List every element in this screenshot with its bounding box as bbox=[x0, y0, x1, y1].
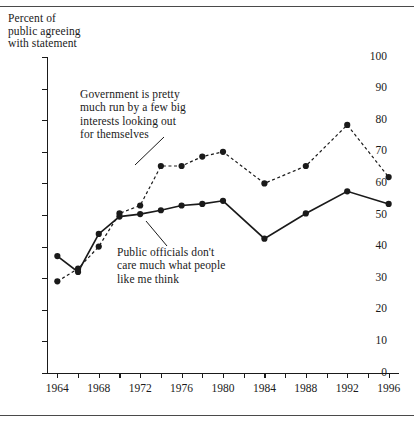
x-tick-label: 1984 bbox=[241, 382, 287, 394]
x-tick bbox=[140, 373, 141, 378]
x-tick-label: 1964 bbox=[34, 382, 80, 394]
x-tick-label: 1992 bbox=[324, 382, 370, 394]
x-tick bbox=[78, 373, 79, 378]
x-tick-label: 1980 bbox=[200, 382, 246, 394]
data-point bbox=[158, 207, 164, 213]
data-point bbox=[54, 253, 60, 259]
data-point bbox=[137, 211, 143, 217]
annotation-interests: Government is pretty much run by a few b… bbox=[80, 88, 186, 142]
chart-axis-title: Percent of public agreeing with statemen… bbox=[8, 12, 81, 50]
data-point bbox=[303, 210, 309, 216]
x-tick bbox=[223, 373, 224, 378]
x-tick bbox=[202, 373, 203, 378]
data-point bbox=[199, 201, 205, 207]
data-point bbox=[96, 231, 102, 237]
x-tick bbox=[347, 373, 348, 378]
data-point bbox=[386, 174, 392, 180]
x-tick bbox=[161, 373, 162, 378]
data-point bbox=[303, 163, 309, 169]
x-tick-label: 1972 bbox=[117, 382, 163, 394]
data-point bbox=[261, 236, 267, 242]
x-tick bbox=[368, 373, 369, 378]
x-tick bbox=[264, 373, 265, 378]
x-tick bbox=[306, 373, 307, 378]
data-point bbox=[386, 201, 392, 207]
data-point bbox=[261, 180, 267, 186]
data-point bbox=[137, 202, 143, 208]
top-rule bbox=[0, 6, 414, 7]
x-tick bbox=[327, 373, 328, 378]
x-tick bbox=[57, 373, 58, 378]
x-tick bbox=[389, 373, 390, 378]
data-point bbox=[199, 153, 205, 159]
data-point bbox=[158, 163, 164, 169]
x-tick bbox=[244, 373, 245, 378]
data-point bbox=[344, 188, 350, 194]
y-tick bbox=[42, 373, 47, 374]
data-point bbox=[96, 244, 102, 250]
x-tick-label: 1968 bbox=[76, 382, 122, 394]
data-point bbox=[54, 278, 60, 284]
x-tick bbox=[119, 373, 120, 378]
x-tick-label: 1976 bbox=[159, 382, 205, 394]
data-point bbox=[178, 202, 184, 208]
data-point bbox=[220, 149, 226, 155]
x-tick bbox=[182, 373, 183, 378]
data-point bbox=[178, 163, 184, 169]
data-point bbox=[116, 213, 122, 219]
annotation-officials: Public officials don't care much what pe… bbox=[117, 246, 225, 286]
data-point bbox=[344, 122, 350, 128]
data-point bbox=[75, 269, 81, 275]
x-tick-label: 1988 bbox=[283, 382, 329, 394]
x-tick-label: 1996 bbox=[366, 382, 412, 394]
x-tick bbox=[99, 373, 100, 378]
data-point bbox=[220, 198, 226, 204]
annotation-leader-officials bbox=[146, 221, 167, 246]
x-tick bbox=[285, 373, 286, 378]
bottom-rule bbox=[0, 415, 414, 416]
